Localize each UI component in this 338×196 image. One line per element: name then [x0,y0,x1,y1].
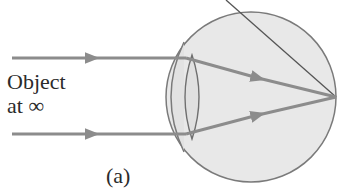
infinity-label: at ∞ [7,95,44,117]
figure-caption: (a) [106,165,130,187]
object-label: Object [7,71,66,93]
eye-diagram [0,0,338,196]
